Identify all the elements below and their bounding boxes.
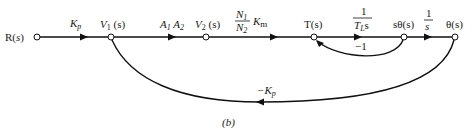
node-label-v1: V1 (s) bbox=[100, 18, 125, 32]
svg-text:TLs: TLs bbox=[354, 19, 369, 33]
signal-flow-graph: R(s) V1 (s) V2 (s) T(s) sθ(s) θ(s) Kp A1… bbox=[0, 0, 473, 128]
svg-text:1: 1 bbox=[361, 5, 367, 17]
gain-n1-n2-km: N1 N2 Km bbox=[235, 8, 267, 35]
gain-1-over-s: 1 s bbox=[424, 7, 433, 32]
arrow-icon bbox=[424, 34, 432, 41]
svg-text:N1: N1 bbox=[235, 8, 247, 22]
node-label-r: R(s) bbox=[5, 31, 24, 44]
arrow-icon bbox=[270, 34, 278, 41]
svg-text:s: s bbox=[425, 20, 429, 32]
node-stheta bbox=[401, 34, 407, 40]
arrow-icon bbox=[316, 40, 324, 47]
figure-caption: (b) bbox=[222, 116, 235, 128]
node-label-v2: V2 (s) bbox=[195, 18, 220, 32]
node-v1 bbox=[108, 34, 114, 40]
arrow-icon bbox=[80, 34, 88, 41]
node-t bbox=[311, 34, 317, 40]
svg-text:N2: N2 bbox=[235, 21, 247, 35]
node-theta bbox=[452, 34, 458, 40]
gain-a1a2: A1 A2 bbox=[159, 18, 184, 32]
node-v2 bbox=[203, 34, 209, 40]
node-label-t: T(s) bbox=[304, 18, 323, 31]
gain-minus-1: −1 bbox=[355, 40, 367, 52]
node-label-stheta: sθ(s) bbox=[393, 18, 414, 31]
arrow-icon bbox=[168, 34, 176, 41]
gain-1-over-tls: 1 TLs bbox=[353, 5, 372, 33]
gain-minus-kp: −Kp bbox=[257, 84, 276, 98]
arrow-icon bbox=[256, 99, 264, 106]
gain-kp: Kp bbox=[69, 17, 81, 31]
branch-theta-v1-feedback bbox=[112, 40, 454, 102]
node-label-theta: θ(s) bbox=[446, 18, 463, 31]
svg-text:Km: Km bbox=[252, 15, 267, 29]
svg-text:1: 1 bbox=[426, 7, 432, 19]
node-r bbox=[34, 34, 40, 40]
